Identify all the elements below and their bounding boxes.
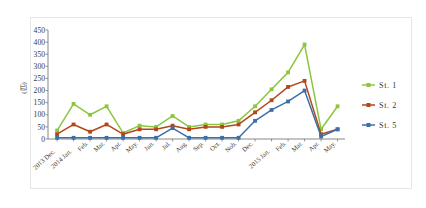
legend-item-st-2[interactable]: St. 2: [362, 101, 397, 110]
data-point-marker: [253, 110, 257, 114]
data-point-marker: [270, 108, 274, 112]
chart-legend: St. 1St. 2St. 5: [362, 81, 397, 130]
chart-svg: 050100150200250300350400450 2013 Dec.201…: [0, 0, 426, 208]
data-point-marker: [303, 43, 307, 47]
data-point-marker: [154, 136, 158, 140]
data-point-marker: [303, 79, 307, 83]
x-axis-tick-label: Nob.: [223, 139, 238, 153]
x-axis-tick-label: 2015 Jan.: [247, 147, 271, 169]
data-point-marker: [88, 113, 92, 117]
data-point-marker: [204, 136, 208, 140]
x-axis-tick-labels: 2013 Dec.2014 Jan.Feb.Mar.Apr.May.Jun.Ju…: [31, 139, 337, 171]
data-point-marker: [72, 136, 76, 140]
y-axis-tick-label: 250: [34, 74, 46, 83]
x-axis-tick-label: Feb.: [76, 139, 90, 152]
series-st-1: [55, 43, 339, 135]
legend-label: St. 5: [379, 121, 397, 130]
line-chart: 050100150200250300350400450 2013 Dec.201…: [0, 0, 426, 208]
y-axis-label: (匹): [20, 82, 28, 94]
y-axis-tick-label: 200: [34, 86, 46, 95]
data-point-marker: [270, 87, 274, 91]
legend-item-st-5[interactable]: St. 5: [362, 121, 397, 130]
data-point-marker: [55, 132, 59, 136]
y-axis-tick-label: 350: [34, 50, 46, 59]
data-point-marker: [336, 127, 340, 131]
data-point-marker: [55, 129, 59, 133]
x-axis-tick-label: Aug.: [174, 139, 189, 153]
y-axis-tick-label: 450: [34, 26, 46, 35]
data-point-marker: [303, 89, 307, 93]
data-point-marker: [286, 100, 290, 104]
series-line: [57, 91, 338, 138]
data-point-marker: [319, 135, 323, 139]
x-axis-tick-label: Feb.: [274, 139, 288, 152]
data-point-marker: [237, 123, 241, 127]
x-axis-tick-label: Mar.: [290, 139, 304, 153]
data-point-marker: [187, 136, 191, 140]
data-point-marker: [220, 136, 224, 140]
legend-swatch-marker: [367, 103, 371, 107]
data-point-marker: [88, 130, 92, 134]
legend-swatch-marker: [367, 123, 371, 127]
x-axis-tick-label: Oct.: [208, 139, 221, 152]
data-point-marker: [88, 136, 92, 140]
x-axis-tick-label: May.: [322, 139, 337, 153]
data-series-group: [55, 43, 339, 140]
x-axis-tick-label: Dec.: [240, 139, 254, 153]
data-point-marker: [237, 119, 241, 123]
series-line: [57, 45, 338, 133]
data-point-marker: [336, 104, 340, 108]
data-point-marker: [105, 104, 109, 108]
x-axis-tick-label: Mar.: [92, 139, 106, 153]
legend-label: St. 1: [379, 81, 397, 90]
data-point-marker: [55, 136, 59, 140]
data-point-marker: [270, 98, 274, 102]
data-point-marker: [204, 125, 208, 129]
x-axis-tick-label: Sep.: [191, 139, 205, 152]
legend-item-st-1[interactable]: St. 1: [362, 81, 397, 90]
x-axis-tick-label: Jul.: [160, 139, 172, 151]
data-point-marker: [253, 104, 257, 108]
y-axis-tick-label: 50: [37, 123, 45, 132]
data-point-marker: [72, 123, 76, 127]
legend-label: St. 2: [379, 101, 397, 110]
y-axis-tick-label: 100: [34, 110, 46, 119]
data-point-marker: [138, 124, 142, 128]
series-st-2: [55, 79, 339, 136]
data-point-marker: [187, 127, 191, 131]
x-axis-tick-label: Apr.: [307, 139, 321, 152]
x-axis-tick-label: May.: [124, 139, 139, 153]
data-point-marker: [138, 136, 142, 140]
x-axis-tick-label: Jun.: [143, 139, 156, 152]
data-point-marker: [121, 132, 125, 136]
y-axis-tick-label: 400: [34, 38, 46, 47]
series-st-5: [55, 89, 339, 140]
data-point-marker: [171, 126, 175, 130]
data-point-marker: [171, 114, 175, 118]
data-point-marker: [72, 102, 76, 106]
data-point-marker: [138, 127, 142, 131]
data-point-marker: [154, 127, 158, 131]
data-point-marker: [237, 136, 241, 140]
data-point-marker: [253, 119, 257, 123]
data-point-marker: [105, 136, 109, 140]
y-axis-tick-label: 150: [34, 98, 46, 107]
data-point-marker: [105, 123, 109, 127]
y-axis-tick-label: 0: [41, 135, 45, 144]
data-point-marker: [286, 85, 290, 89]
y-axis-tick-labels: 050100150200250300350400450: [34, 26, 46, 144]
y-axis-tick-label: 300: [34, 62, 46, 71]
x-axis-tick-label: Apr.: [109, 139, 123, 152]
data-point-marker: [220, 125, 224, 129]
legend-swatch-marker: [367, 83, 371, 87]
data-point-marker: [121, 136, 125, 140]
data-point-marker: [286, 70, 290, 74]
